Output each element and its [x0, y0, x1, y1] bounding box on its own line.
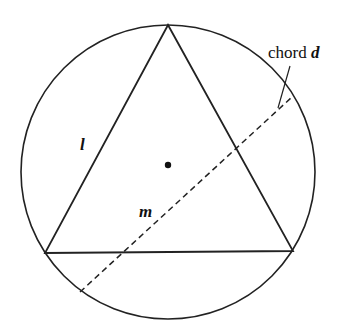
circle	[21, 25, 315, 319]
chord-d	[80, 97, 292, 292]
diagram-canvas: l m chord d	[0, 0, 354, 330]
chord-var: d	[311, 43, 320, 62]
label-m: m	[139, 202, 152, 221]
center-dot	[165, 162, 171, 168]
label-chord: chord d	[268, 43, 320, 62]
label-l: l	[80, 135, 85, 154]
chord-word: chord	[268, 43, 311, 62]
